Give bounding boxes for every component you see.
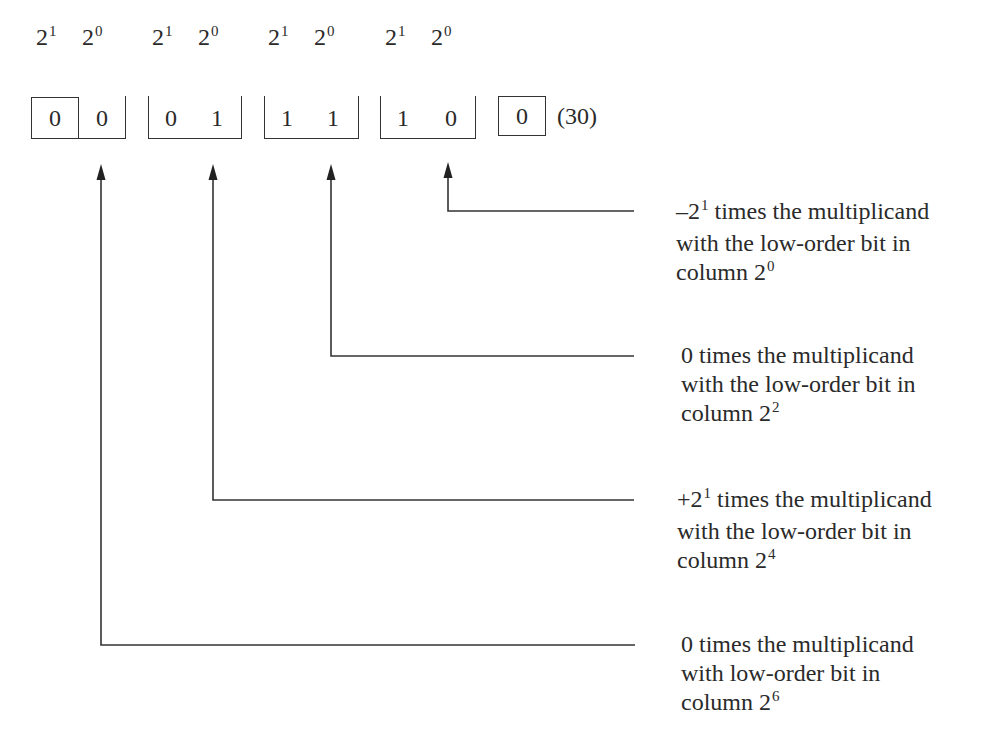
annotation-pos2: +21 times the multiplicand with the low-… xyxy=(677,485,932,578)
leader-line-3 xyxy=(213,180,634,500)
leader-line-4 xyxy=(101,180,635,645)
leader-line-2 xyxy=(331,180,634,356)
annotation-neg2: –21 times the multiplicand with the low-… xyxy=(676,197,929,290)
arrowhead-icon xyxy=(209,164,218,180)
annotation-zero-col6: 0 times the multiplicand with low-order … xyxy=(681,630,914,720)
arrowhead-icon xyxy=(327,164,336,180)
arrowhead-icon xyxy=(97,164,106,180)
annotation-zero-col2: 0 times the multiplicand with the low-or… xyxy=(681,341,916,431)
leader-line-1 xyxy=(448,176,634,211)
arrowhead-icon xyxy=(444,162,453,178)
